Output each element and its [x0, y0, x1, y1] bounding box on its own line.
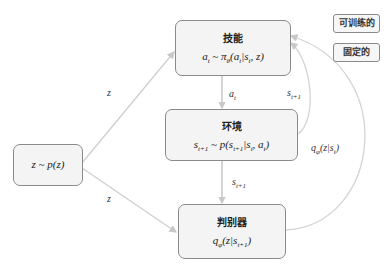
node-environment-title: 环境 — [166, 118, 297, 133]
legend-fixed: 固定的 — [333, 43, 380, 62]
edge-label-s-t1-upper: st+1 — [287, 87, 301, 101]
node-discriminator: 判别器 qφ(z|st+1) — [178, 204, 286, 259]
node-environment: 环境 st+1 ~ p(st+1|st, at) — [165, 109, 298, 161]
node-skill-formula: at ~ πθ(at|st, z) — [176, 50, 290, 65]
node-prior-formula: z ~ p(z) — [14, 158, 82, 170]
edge-label-s-t1-lower: st+1 — [232, 176, 246, 190]
edge-label-z-upper: z — [107, 87, 111, 98]
edge-label-a-t: at — [229, 88, 236, 102]
node-prior: z ~ p(z) — [13, 144, 83, 186]
edge-label-z-lower: z — [107, 193, 111, 204]
node-environment-formula: st+1 ~ p(st+1|st, at) — [166, 138, 297, 153]
legend-trainable: 可训练的 — [333, 14, 380, 33]
node-skill: 技能 at ~ πθ(at|st, z) — [175, 20, 291, 76]
edge-prior-to-skill — [82, 52, 174, 163]
node-skill-title: 技能 — [176, 30, 290, 45]
node-discriminator-formula: qφ(z|st+1) — [179, 234, 285, 249]
edge-label-q-phi: qφ(z|st) — [311, 142, 339, 156]
node-discriminator-title: 判别器 — [179, 214, 285, 229]
edge-prior-to-discriminator — [82, 168, 176, 232]
